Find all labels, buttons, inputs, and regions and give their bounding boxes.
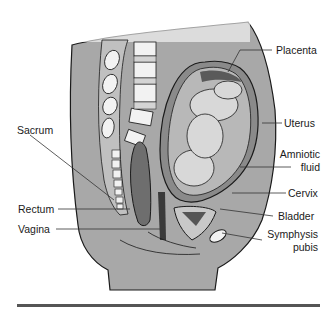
label-bladder: Bladder — [278, 210, 314, 222]
label-rectum: Rectum — [18, 203, 54, 215]
label-placenta: Placenta — [276, 44, 317, 56]
label-amniotic-fluid-line1: Amniotic — [275, 148, 320, 160]
bottom-rule — [17, 304, 320, 307]
label-cervix: Cervix — [288, 187, 318, 199]
label-uterus: Uterus — [284, 117, 315, 129]
label-amniotic-fluid-line2: fluid — [275, 161, 320, 173]
label-sacrum: Sacrum — [17, 124, 53, 136]
label-symphysis-pubis-line1: Symphysis — [262, 228, 318, 240]
label-symphysis-pubis-line2: pubis — [262, 241, 318, 253]
label-vagina: Vagina — [18, 223, 50, 235]
